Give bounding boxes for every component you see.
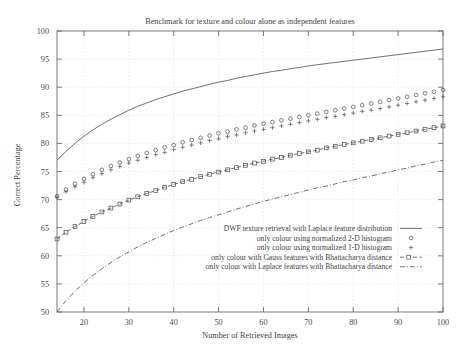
y-tick-label: 100 xyxy=(37,27,49,36)
x-axis-label: Number of Retrieved Images xyxy=(202,331,297,340)
y-tick-label: 55 xyxy=(41,280,49,289)
y-tick-label: 70 xyxy=(41,196,49,205)
legend-glyph-square xyxy=(407,255,411,259)
legend-label-2: only colour using normalized 1-D histogr… xyxy=(257,243,392,252)
y-axis-label: Correct Percentage xyxy=(13,143,22,206)
y-tick-label: 65 xyxy=(41,224,49,233)
legend-label-1: only colour using normalized 2-D histogr… xyxy=(257,234,392,243)
y-tick-label: 80 xyxy=(41,139,49,148)
y-tick-label: 60 xyxy=(41,252,49,261)
y-tick-label: 90 xyxy=(41,83,49,92)
legend-label-0: DWF texture retrieval with Laplace featu… xyxy=(224,224,392,233)
benchmark-line-chart: Benchmark for texture and colour alone a… xyxy=(0,0,464,352)
chart-figure: Benchmark for texture and colour alone a… xyxy=(0,0,464,352)
chart-background xyxy=(0,0,464,352)
y-tick-label: 95 xyxy=(41,55,49,64)
x-tick-label: 60 xyxy=(259,318,267,327)
x-tick-label: 70 xyxy=(304,318,312,327)
x-tick-label: 80 xyxy=(349,318,357,327)
x-tick-label: 100 xyxy=(437,318,449,327)
legend-label-4: only colour with Laplace features with B… xyxy=(206,262,393,271)
y-tick-label: 50 xyxy=(41,308,49,317)
y-tick-label: 85 xyxy=(41,111,49,120)
x-tick-label: 20 xyxy=(80,318,88,327)
x-tick-label: 90 xyxy=(394,318,402,327)
legend-label-3: only colour with Gauss features with Bha… xyxy=(211,253,392,262)
x-tick-label: 50 xyxy=(214,318,222,327)
x-tick-label: 40 xyxy=(170,318,178,327)
x-tick-label: 30 xyxy=(125,318,133,327)
chart-title: Benchmark for texture and colour alone a… xyxy=(145,17,355,26)
y-tick-label: 75 xyxy=(41,168,49,177)
